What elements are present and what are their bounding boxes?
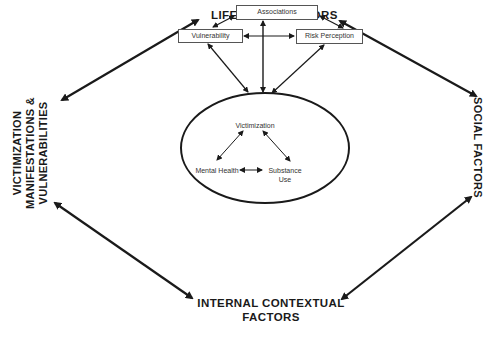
internal-contextual-factors-label: INTERNAL CONTEXTUAL FACTORS bbox=[191, 296, 351, 324]
victimization-line2: MANIFESTATIONS & bbox=[24, 93, 37, 213]
arrow-victimization-internal bbox=[55, 203, 192, 298]
victimization-line1: VICTIMIZATION bbox=[11, 93, 24, 213]
arrow-victimization-mentalhealth bbox=[217, 131, 243, 160]
internal-contextual-line1: INTERNAL CONTEXTUAL bbox=[191, 296, 351, 310]
risk-perception-box: Risk Perception bbox=[296, 29, 363, 44]
vulnerability-box: Vulnerability bbox=[178, 29, 243, 43]
substance-use-line1: Substance bbox=[262, 166, 308, 175]
arrow-vulnerability-core bbox=[208, 44, 248, 92]
substance-use-node: Substance Use bbox=[262, 166, 308, 184]
victimization-framework-diagram: LIFESTYLE FACTORS INTERNAL CONTEXTUAL FA… bbox=[0, 0, 501, 339]
associations-box: Associations bbox=[236, 5, 318, 20]
arrow-riskperception-core bbox=[272, 45, 324, 93]
core-ellipse bbox=[181, 93, 349, 203]
substance-use-line2: Use bbox=[262, 175, 308, 184]
internal-contextual-line2: FACTORS bbox=[191, 310, 351, 324]
victimization-manifestations-label: VICTIMIZATION MANIFESTATIONS & VULNERABI… bbox=[11, 93, 53, 213]
arrow-victimization-substanceuse bbox=[263, 131, 290, 161]
victimization-node: Victimization bbox=[230, 121, 280, 130]
social-factors-label: SOCIAL FACTORS bbox=[470, 97, 484, 197]
mental-health-node: Mental Health bbox=[192, 166, 242, 175]
arrow-social-internal bbox=[342, 197, 471, 299]
victimization-line3: VULNERABILITIES bbox=[37, 93, 50, 213]
diagram-connectors bbox=[0, 0, 501, 339]
